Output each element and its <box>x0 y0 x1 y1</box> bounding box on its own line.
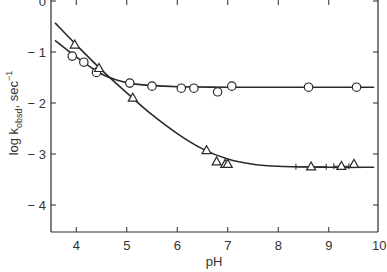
x-tick-label: 7 <box>224 238 231 253</box>
circle-marker <box>213 88 221 96</box>
y-tick-label: − 2 <box>28 96 46 111</box>
circle-marker <box>304 83 312 91</box>
y-tick-label: − 3 <box>28 147 46 162</box>
x-tick-label: 9 <box>325 238 332 253</box>
circle-marker <box>190 84 198 92</box>
circle-marker <box>126 79 134 87</box>
y-tick-label: − 4 <box>28 198 46 213</box>
triangle-marker <box>337 161 346 169</box>
triangle-marker <box>70 40 79 48</box>
circle-marker <box>80 58 88 66</box>
axes: 456789100− 1− 2− 3− 4 <box>28 0 387 253</box>
circles-fit-curve <box>55 40 374 87</box>
x-axis-label: pH <box>206 254 223 269</box>
x-tick-label: 8 <box>275 238 282 253</box>
circle-marker <box>68 52 76 60</box>
x-tick-label: 10 <box>372 238 386 253</box>
y-axis-label: log kobsd, sec−1 <box>4 71 24 156</box>
x-tick-label: 5 <box>123 238 130 253</box>
y-tick-label: − 1 <box>28 45 46 60</box>
triangle-marker <box>350 159 359 167</box>
triangle-marker <box>212 157 221 165</box>
x-tick-label: 6 <box>174 238 181 253</box>
triangle-marker <box>307 162 316 170</box>
triangle-marker <box>128 93 137 101</box>
circle-marker <box>177 84 185 92</box>
circle-marker <box>228 82 236 90</box>
y-tick-label: 0 <box>39 0 46 9</box>
circle-marker <box>148 82 156 90</box>
circle-marker <box>352 83 360 91</box>
x-tick-label: 4 <box>73 238 80 253</box>
data-markers <box>68 40 361 170</box>
chart: 456789100− 1− 2− 3− 4 pH log kobsd, sec−… <box>0 0 387 272</box>
